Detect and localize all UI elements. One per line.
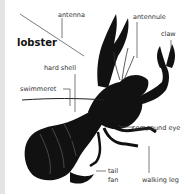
label-hard-shell: hard shell bbox=[44, 64, 76, 72]
label-claw: claw bbox=[161, 30, 176, 38]
label-antennule: antennule bbox=[133, 13, 166, 21]
label-tail: tail bbox=[108, 167, 118, 175]
label-compound-eye: compound eye bbox=[132, 124, 180, 132]
label-fan: fan bbox=[108, 176, 118, 184]
label-swimmeret: swimmeret bbox=[20, 85, 56, 93]
diagram-title: lobster bbox=[17, 37, 57, 48]
label-antenna: antenna bbox=[58, 11, 85, 19]
label-walking-leg: walking leg bbox=[142, 176, 179, 184]
